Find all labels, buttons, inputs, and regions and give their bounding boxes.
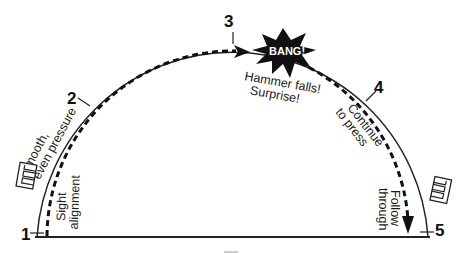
stage-number-3: 3 (224, 12, 233, 31)
right-trigger-finger-icon (430, 177, 452, 204)
hammer-falls-note: Hammer falls! Surprise! (241, 69, 322, 109)
tick-2 (78, 98, 90, 106)
follow-line-2: through (376, 188, 390, 230)
sight-line-2: alignment (67, 174, 83, 229)
left-trigger-finger-icon (16, 162, 37, 189)
diagram-canvas: BANG! 1 2 3 4 5 Smooth, even pressure Si… (0, 0, 458, 253)
stage-number-1: 1 (21, 225, 30, 244)
trigger-press-diagram: BANG! 1 2 3 4 5 Smooth, even pressure Si… (0, 0, 458, 253)
arrowhead-down-icon (402, 216, 414, 234)
stage-number-2: 2 (67, 89, 76, 108)
stage-number-5: 5 (435, 221, 444, 240)
continue-press-note: Continue to press (333, 98, 387, 157)
sight-alignment-note: Sight alignment (54, 174, 83, 230)
follow-through-note: Follow through (376, 188, 402, 230)
bang-label: BANG! (269, 45, 305, 57)
stage-number-4: 4 (374, 78, 384, 97)
outer-arc (37, 52, 428, 237)
